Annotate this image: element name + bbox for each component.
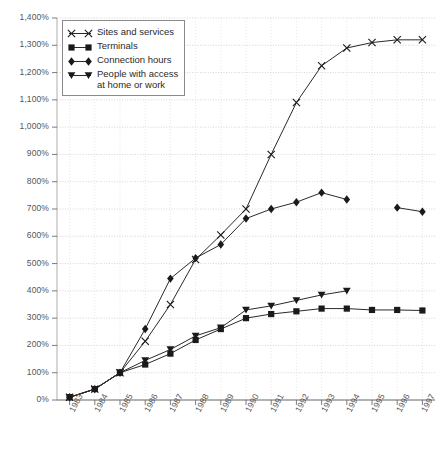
- chart-container: 0%100%200%300%400%500%600%700%800%900%1,…: [0, 0, 444, 460]
- y-axis-tick-label: 1,200%: [0, 67, 49, 77]
- y-axis-tick-label: 700%: [0, 203, 49, 213]
- y-axis-tick-label: 1,300%: [0, 39, 49, 49]
- y-axis-tick-label: 800%: [0, 176, 49, 186]
- chart-legend: Sites and servicesTerminalsConnection ho…: [62, 20, 185, 96]
- legend-item: Sites and services: [67, 26, 178, 39]
- legend-marker-cross-icon: [67, 26, 93, 39]
- y-axis-tick-label: 300%: [0, 312, 49, 322]
- y-axis-tick-label: 500%: [0, 258, 49, 268]
- legend-item: People with access at home or work: [67, 68, 178, 90]
- legend-label: Sites and services: [93, 26, 174, 37]
- series-terminals: [67, 305, 426, 400]
- y-axis-tick-label: 600%: [0, 230, 49, 240]
- legend-marker-triangle-down-icon: [67, 68, 93, 81]
- y-axis-tick-label: 900%: [0, 148, 49, 158]
- y-axis-tick-label: 1,000%: [0, 121, 49, 131]
- legend-label: People with access at home or work: [93, 68, 178, 90]
- y-axis-tick-label: 100%: [0, 367, 49, 377]
- y-axis-tick-label: 1,100%: [0, 94, 49, 104]
- legend-label: Connection hours: [93, 54, 171, 65]
- y-axis-tick-label: 0%: [0, 394, 49, 404]
- series-people-with-access-at-home-or-work: [66, 288, 351, 401]
- y-axis-tick-label: 200%: [0, 339, 49, 349]
- y-axis-tick-label: 400%: [0, 285, 49, 295]
- legend-marker-diamond-icon: [67, 54, 93, 67]
- y-axis-tick-label: 1,400%: [0, 12, 49, 22]
- legend-item: Connection hours: [67, 54, 178, 67]
- legend-item: Terminals: [67, 40, 178, 53]
- legend-label: Terminals: [93, 40, 138, 51]
- legend-marker-square-icon: [67, 40, 93, 53]
